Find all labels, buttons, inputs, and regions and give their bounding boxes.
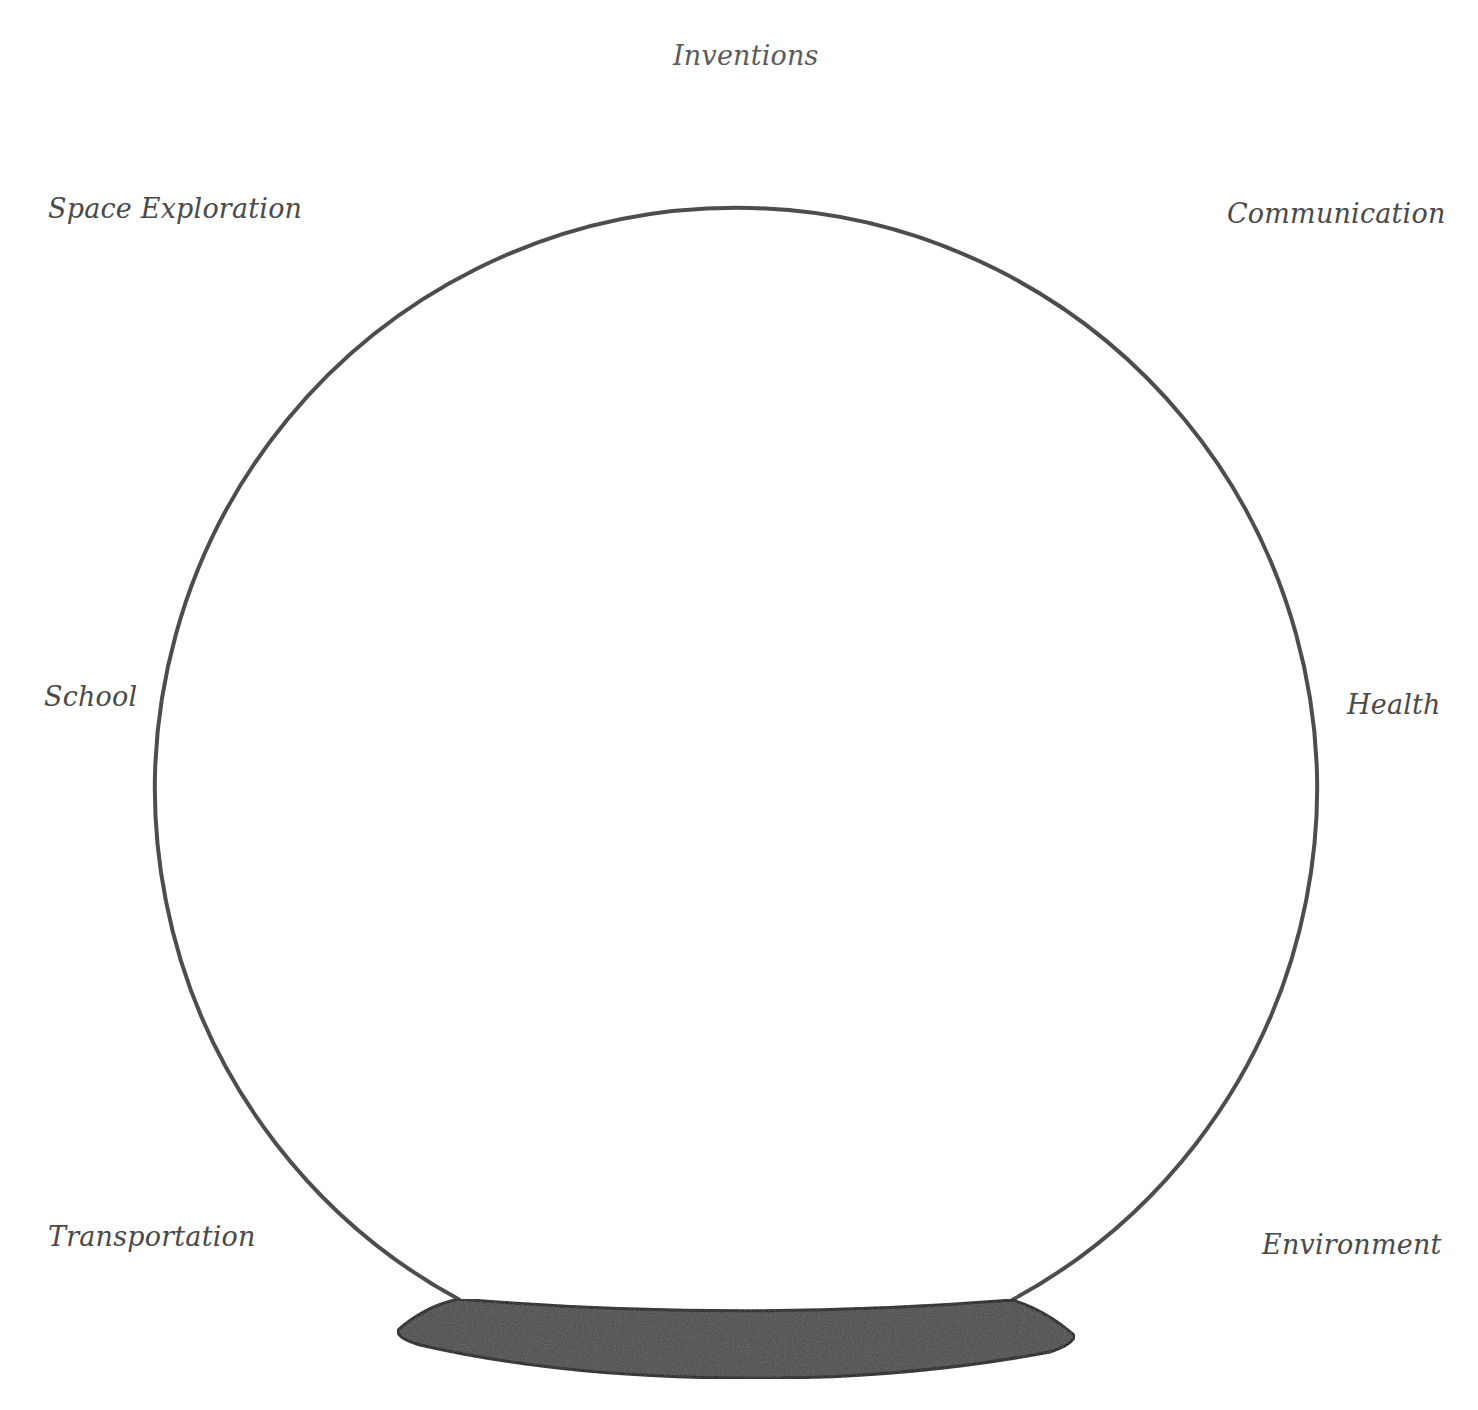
globe-base: [398, 1299, 1075, 1378]
label-space-exploration: Space Exploration: [48, 195, 302, 222]
label-communication: Communication: [1227, 200, 1445, 227]
label-school: School: [44, 683, 137, 710]
label-health: Health: [1347, 691, 1441, 718]
label-inventions: Inventions: [673, 42, 819, 69]
label-environment: Environment: [1262, 1231, 1442, 1258]
globe-outline: [155, 208, 1317, 1300]
crystal-ball-diagram: Inventions Space Exploration Communicati…: [0, 0, 1478, 1410]
label-transportation: Transportation: [48, 1223, 256, 1250]
